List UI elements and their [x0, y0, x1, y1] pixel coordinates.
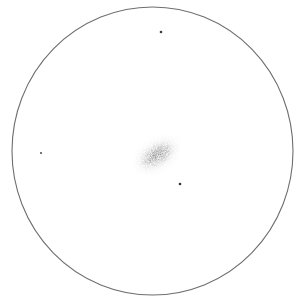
star-top-icon [160, 31, 163, 34]
eyepiece-sketch [0, 0, 299, 301]
star-lower-right-icon [179, 183, 182, 186]
star-left-icon [40, 152, 42, 154]
